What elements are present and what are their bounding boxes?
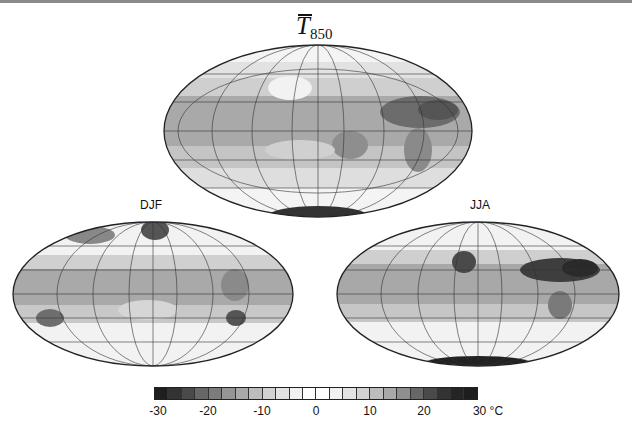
colorbar-box [357,388,370,399]
colorbar-box [424,388,437,399]
colorbar-box [343,388,356,399]
colorbar-box [195,388,208,399]
colorbar-tick: 20 [417,404,430,418]
colorbar-tick: -10 [253,404,270,418]
map-annual [160,40,480,226]
colorbar-box [397,388,410,399]
colorbar-box [182,388,195,399]
colorbar-tick: 10 [363,404,376,418]
colorbar-box [451,388,464,399]
colorbar-box [290,388,303,399]
map-djf [10,220,300,370]
colorbar-tick: 0 [313,404,320,418]
colorbar-box [276,388,289,399]
colorbar-box [168,388,181,399]
colorbar-box [330,388,343,399]
colorbar-box [222,388,235,399]
map-panels [0,0,632,430]
colorbar-box [155,388,168,399]
colorbar-tick: 30 °C [473,404,503,418]
colorbar-box [236,388,249,399]
colorbar-box [411,388,424,399]
colorbar-tick: -30 [149,404,166,418]
colorbar-box [316,388,329,399]
colorbar-box [370,388,383,399]
map-jja [330,220,630,372]
colorbar-box [263,388,276,399]
colorbar-tick: -20 [199,404,216,418]
colorbar-box [384,388,397,399]
colorbar-box [209,388,222,399]
colorbar-box [464,388,476,399]
colorbar-box [249,388,262,399]
colorbar-box [438,388,451,399]
colorbar-box [303,388,316,399]
colorbar [154,387,478,400]
